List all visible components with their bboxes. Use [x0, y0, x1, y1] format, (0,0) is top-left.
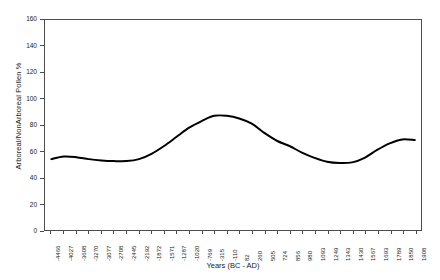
- x-axis-tick-label: 1693: [382, 235, 390, 261]
- x-axis-tick-label: -3077: [105, 235, 113, 261]
- x-axis-tick-mark: [340, 231, 341, 234]
- x-axis-tick-label: -1287: [180, 235, 188, 261]
- x-axis-tick-label: -3608: [80, 235, 88, 261]
- x-axis-tick-mark: [265, 231, 266, 234]
- pollen-curve-path: [51, 115, 414, 163]
- x-axis-tick-label: -769: [206, 235, 214, 261]
- y-axis-tick-label: 120: [26, 67, 37, 77]
- x-axis-tick-mark: [151, 231, 152, 234]
- x-axis-tick-mark: [202, 231, 203, 234]
- y-axis-tick-label: 100: [26, 94, 37, 104]
- x-axis-tick-mark: [76, 231, 77, 234]
- x-axis-tick-mark: [378, 231, 379, 234]
- x-axis-tick-mark: [365, 231, 366, 234]
- x-axis-tick-label: -4466: [54, 235, 62, 261]
- x-axis-tick-label: 724: [281, 235, 289, 261]
- x-axis-tick-mark: [403, 231, 404, 234]
- x-axis-tick-label: 1093: [319, 235, 327, 261]
- x-axis-tick-label: -315: [218, 235, 226, 261]
- x-axis-tick-mark: [391, 231, 392, 234]
- y-axis-tick-label: 80: [30, 120, 37, 130]
- x-axis-tick-label: 856: [294, 235, 302, 261]
- y-axis-tick-label: 40: [30, 173, 37, 183]
- x-axis-tick-label: -3270: [92, 235, 100, 261]
- x-axis-tick-label: 980: [306, 235, 314, 261]
- x-axis-tick-mark: [88, 231, 89, 234]
- y-axis-tick-label: 160: [26, 14, 37, 24]
- x-axis-tick-mark: [416, 231, 417, 234]
- x-axis-tick-mark: [139, 231, 140, 234]
- y-axis-tick: 0: [0, 226, 44, 236]
- x-axis-tick-label: 260: [256, 235, 264, 261]
- x-axis-tick-mark: [50, 231, 51, 234]
- x-axis-tick-label: 505: [269, 235, 277, 261]
- x-axis-tick-label: -110: [231, 235, 239, 261]
- x-axis-tick-label: 1249: [332, 235, 340, 261]
- x-axis-tick-label: -1872: [155, 235, 163, 261]
- x-axis-tick-label: -1020: [193, 235, 201, 261]
- x-axis-tick-mark: [239, 231, 240, 234]
- x-axis-tick-label: -4027: [67, 235, 75, 261]
- x-axis-tick-mark: [315, 231, 316, 234]
- x-axis-tick-mark: [290, 231, 291, 234]
- x-axis-tick-label: 1908: [420, 235, 428, 261]
- y-axis-tick: 80: [0, 120, 44, 130]
- x-axis-tick-label: -2708: [117, 235, 125, 261]
- x-axis-title: Years (BC - AD): [44, 261, 422, 270]
- y-axis-tick-label: 140: [26, 41, 37, 51]
- x-axis-tick-mark: [227, 231, 228, 234]
- x-axis-tick-label: 1567: [369, 235, 377, 261]
- x-axis-tick-mark: [189, 231, 190, 234]
- y-axis-tick: 100: [0, 94, 44, 104]
- x-axis-tick-label: 1789: [395, 235, 403, 261]
- y-axis-title: Arboreal/NonArboreal Pollen %: [14, 0, 28, 232]
- y-axis-tick: 40: [0, 173, 44, 183]
- y-axis-tick: 60: [0, 147, 44, 157]
- y-axis-tick-label: 60: [30, 147, 37, 157]
- x-axis-tick-mark: [214, 231, 215, 234]
- x-axis-tick-mark: [113, 231, 114, 234]
- y-axis-tick: 20: [0, 200, 44, 210]
- y-axis-tick: 120: [0, 67, 44, 77]
- x-axis-tick-label: 1850: [407, 235, 415, 261]
- y-axis-tick: 140: [0, 41, 44, 51]
- plot-area: [44, 19, 422, 231]
- chart-figure: Arboreal/NonArboreal Pollen % 0204060801…: [0, 0, 440, 280]
- y-axis-tick: 160: [0, 14, 44, 24]
- x-axis-tick-mark: [63, 231, 64, 234]
- x-axis-tick-mark: [126, 231, 127, 234]
- x-axis-tick-mark: [328, 231, 329, 234]
- x-axis-tick-label: -2445: [130, 235, 138, 261]
- x-axis-tick-mark: [176, 231, 177, 234]
- x-axis-tick-label: 82: [243, 235, 251, 261]
- x-axis-tick-mark: [302, 231, 303, 234]
- x-axis-tick-mark: [164, 231, 165, 234]
- x-axis-tick-label: 1343: [344, 235, 352, 261]
- y-axis-tick-label: 0: [33, 226, 37, 236]
- pollen-curve: [45, 20, 421, 230]
- x-axis-tick-label: -1571: [168, 235, 176, 261]
- x-axis-tick-mark: [277, 231, 278, 234]
- x-axis-tick-label: 1430: [357, 235, 365, 261]
- x-axis-tick-mark: [252, 231, 253, 234]
- x-axis-tick-label: -2192: [143, 235, 151, 261]
- x-axis-tick-mark: [353, 231, 354, 234]
- y-axis-tick-label: 20: [30, 200, 37, 210]
- x-axis-tick-mark: [101, 231, 102, 234]
